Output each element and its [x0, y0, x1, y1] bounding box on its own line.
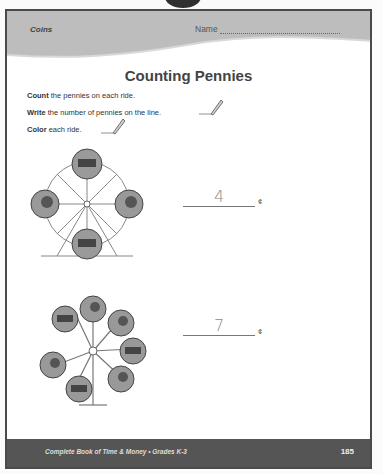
instruction-verb: Write — [27, 108, 46, 117]
name-label: Name — [195, 24, 218, 34]
penny-icon — [108, 366, 134, 392]
cent-symbol: ¢ — [258, 327, 262, 336]
penny-icon — [72, 229, 102, 259]
book-title: Complete Book of Time & Money • Grades K… — [45, 448, 187, 455]
cent-symbol: ¢ — [258, 197, 262, 206]
topic-label: Coins — [30, 25, 52, 34]
penny-icon — [115, 190, 143, 218]
penny-icon — [31, 190, 59, 218]
answer-line-2[interactable]: 7 — [183, 316, 255, 336]
page-title: Counting Pennies — [7, 67, 370, 84]
answer-line-1[interactable]: 4 — [183, 187, 255, 207]
ferris-wheel-ride[interactable] — [25, 142, 145, 262]
swing-carousel-ride[interactable] — [35, 293, 155, 413]
instruction-text: each ride. — [47, 125, 82, 134]
penny-icon — [108, 310, 134, 336]
instruction-text: the pennies on each ride. — [49, 91, 135, 100]
penny-icon — [40, 352, 66, 378]
name-field[interactable]: Name — [195, 24, 340, 34]
binder-hole — [165, 0, 201, 8]
crayon-icon — [101, 115, 125, 135]
penny-icon — [80, 296, 106, 322]
instruction-verb: Color — [27, 125, 47, 134]
pencil-icon — [199, 96, 223, 116]
name-line[interactable] — [220, 24, 340, 34]
page-number: 185 — [341, 447, 354, 456]
worksheet-page: Coins Name Counting Pennies Count the pe… — [5, 9, 372, 469]
page-footer: Complete Book of Time & Money • Grades K… — [7, 439, 370, 467]
instruction-color: Color each ride. — [27, 125, 82, 134]
penny-icon — [52, 306, 78, 332]
penny-icon — [72, 149, 102, 179]
header-wave-banner — [7, 11, 372, 63]
page-header: Coins Name — [7, 11, 370, 63]
instruction-verb: Count — [27, 91, 49, 100]
instruction-count: Count the pennies on each ride. — [27, 91, 135, 100]
penny-icon — [66, 376, 92, 402]
penny-icon — [120, 338, 146, 364]
instruction-write: Write the number of pennies on the line. — [27, 108, 161, 117]
